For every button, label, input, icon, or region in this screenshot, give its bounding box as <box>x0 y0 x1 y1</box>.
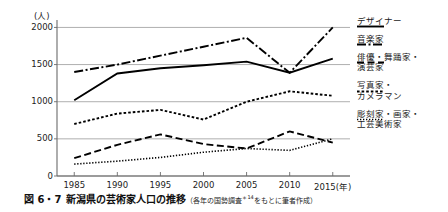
legend-label-1: 音楽家 <box>357 34 448 45</box>
y-tick-label-0: 0 <box>25 171 53 181</box>
caption-figure-number: 図 6・7 <box>24 194 61 205</box>
y-tick-label-500: 500 <box>25 133 53 143</box>
legend-item-0[interactable]: デザイナー <box>357 14 448 26</box>
legend-label-2: 俳優・舞踊家・ 演芸家 <box>357 52 448 73</box>
series-line-3 <box>74 91 333 124</box>
legend-label-0: デザイナー <box>357 16 448 27</box>
caption-source-mark: ＊14 <box>242 194 253 200</box>
series-line-2 <box>74 131 333 158</box>
caption-title: 新潟県の芸術家人口の推移 <box>66 194 186 205</box>
legend-label-3: 写真家・ カメラマン <box>357 80 448 101</box>
chart-legend: デザイナー音楽家俳優・舞踊家・ 演芸家写真家・ カメラマン彫刻家・画家・ 工芸美… <box>357 14 448 136</box>
y-tick-label-2000: 2000 <box>25 22 53 32</box>
legend-item-1[interactable]: 音楽家 <box>357 32 448 44</box>
x-tick-label-2015(年): 2015(年) <box>308 180 358 192</box>
legend-item-4[interactable]: 彫刻家・画家・ 工芸美術家 <box>357 107 448 130</box>
y-axis-unit-label: (人) <box>34 9 50 21</box>
legend-label-4: 彫刻家・画家・ 工芸美術家 <box>357 109 448 130</box>
caption-source-tail: をもとに筆者作成） <box>254 197 317 205</box>
figure-artist-population: (人) デザイナー音楽家俳優・舞踊家・ 演芸家写真家・ カメラマン彫刻家・画家・… <box>0 0 448 212</box>
caption-source: （各年の国勢調査 <box>186 197 242 205</box>
y-tick-label-1500: 1500 <box>25 59 53 69</box>
legend-item-3[interactable]: 写真家・ カメラマン <box>357 79 448 102</box>
y-tick-label-1000: 1000 <box>25 96 53 106</box>
figure-caption: 図 6・7新潟県の芸術家人口の推移（各年の国勢調査＊14をもとに筆者作成） <box>24 191 317 206</box>
series-line-4 <box>74 139 333 164</box>
legend-item-2[interactable]: 俳優・舞踊家・ 演芸家 <box>357 50 448 73</box>
